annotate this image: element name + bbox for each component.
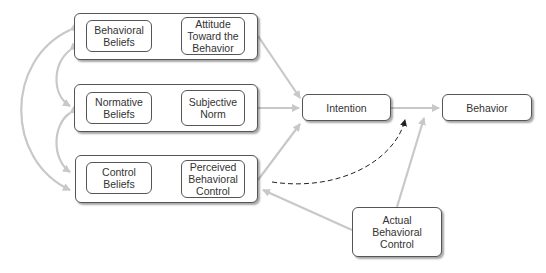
arrow-attitude-to-intention [258,36,300,98]
intention-node: Intention [302,94,391,121]
control-beliefs-node: Control Beliefs [86,162,152,194]
attitude-node: Attitude Toward the Behavior [181,17,245,55]
arrow-actual-control-to-pbc [263,190,352,230]
actual-behavioral-control-label: Actual Behavioral Control [372,214,422,250]
dashed-arrow-pbc-moderation [272,120,405,184]
correlation-arc-middle-bottom [57,113,71,172]
attitude-label: Attitude Toward the Behavior [187,18,238,54]
arrow-pbc-to-intention [258,124,300,180]
intention-label: Intention [326,102,366,114]
behavior-node: Behavior [442,94,532,121]
subjective-norm-node: Subjective Norm [181,90,245,126]
behavior-label: Behavior [466,102,507,114]
control-beliefs-label: Control Beliefs [102,166,136,190]
normative-beliefs-node: Normative Beliefs [86,92,152,124]
correlation-arc-top-middle [57,50,71,106]
behavioral-beliefs-node: Behavioral Beliefs [86,20,152,52]
behavioral-beliefs-label: Behavioral Beliefs [94,24,144,48]
subjective-norm-label: Subjective Norm [189,96,237,120]
actual-behavioral-control-node: Actual Behavioral Control [352,207,442,257]
normative-beliefs-label: Normative Beliefs [95,96,143,120]
perceived-behavioral-control-label: Perceived Behavioral Control [188,161,238,197]
perceived-behavioral-control-node: Perceived Behavioral Control [181,160,245,198]
